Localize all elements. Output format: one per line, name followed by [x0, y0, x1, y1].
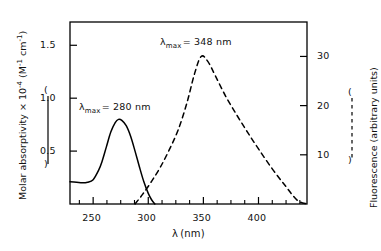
- left-tick-label-1.5: 1.5: [40, 39, 56, 50]
- left-tick-label-1.0: 1.0: [40, 92, 56, 103]
- x-tick-label-350: 350: [192, 212, 211, 223]
- right-tick-label-10: 10: [317, 149, 330, 160]
- right-tick-label-30: 30: [317, 50, 330, 61]
- lambda-max-348-subscript: max: [166, 42, 182, 50]
- left-axis-exponent-3: -1: [16, 35, 24, 42]
- x-axis-title: λ(nm): [172, 228, 205, 239]
- right-axis-title: Fluorescence (arbitrary units): [368, 67, 379, 208]
- x-tick-label-300: 300: [137, 212, 156, 223]
- left-axis-ticks: [70, 45, 77, 151]
- right-tick-label-20: 20: [317, 100, 330, 111]
- fluorescence-curve: [135, 56, 307, 204]
- x-axis-ticks: [79, 197, 299, 204]
- figure-spectra-chart: 250300350400 1.51.00.5 302010 λ(nm) Mola…: [0, 0, 381, 251]
- left-legend-paren-close: ): [44, 158, 48, 169]
- left-axis-title-text2: (M: [17, 66, 28, 81]
- right-legend-paren-open: (: [348, 86, 352, 97]
- left-axis-title: Molar absorptivity × 10-4 (M-1 cm-1): [16, 31, 28, 200]
- lambda-max-280: λmax= 280 nm: [79, 101, 151, 115]
- left-legend-paren-open: (: [44, 84, 48, 95]
- lambda-max-280-subscript: max: [85, 107, 101, 115]
- left-tick-label-0.5: 0.5: [40, 145, 56, 156]
- left-axis-exponent-1: -4: [16, 81, 24, 88]
- left-axis-title-text1: Molar absorptivity × 10: [17, 88, 28, 200]
- right-legend-paren-close: ): [348, 154, 352, 165]
- x-tick-label-250: 250: [82, 212, 101, 223]
- left-axis-title-text4: ): [17, 31, 28, 35]
- absorption-curve: [70, 119, 155, 204]
- x-axis-lambda-symbol: λ: [172, 228, 178, 239]
- left-axis-exponent-2: -1: [16, 59, 24, 66]
- lambda-max-348: λmax= 348 nm: [160, 36, 232, 50]
- lambda-max-280-value: = 280 nm: [102, 101, 151, 112]
- lambda-max-348-value: = 348 nm: [183, 36, 232, 47]
- x-axis-unit: (nm): [180, 228, 205, 239]
- right-axis-ticks: [300, 56, 307, 154]
- x-tick-label-400: 400: [247, 212, 266, 223]
- left-axis-title-text3: cm: [17, 42, 28, 60]
